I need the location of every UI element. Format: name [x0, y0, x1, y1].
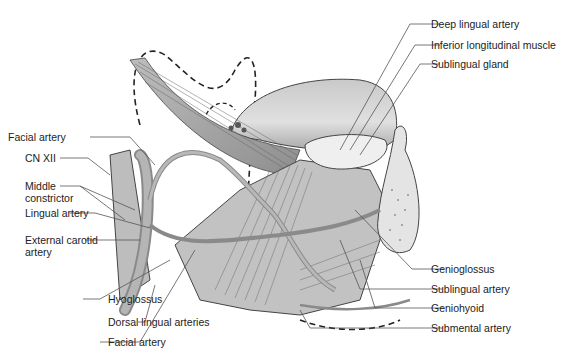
hyoglossus: [175, 160, 385, 315]
label-sublingual-gland: Sublingual gland: [431, 58, 509, 70]
label-sublingual-artery: Sublingual artery: [431, 283, 510, 295]
label-submental-artery: Submental artery: [431, 322, 511, 334]
label-hyoglossus: Hyoglossus: [108, 293, 162, 305]
label-geniohyoid: Geniohyoid: [431, 302, 484, 314]
label-external-carotid-artery: External carotid artery: [25, 234, 120, 258]
tongue-anatomy-illustration: [0, 0, 579, 353]
label-deep-lingual-artery: Deep lingual artery: [431, 18, 519, 30]
label-cn-xii: CN XII: [25, 152, 56, 164]
label-lingual-artery: Lingual artery: [25, 207, 89, 219]
label-facial-artery-lower: Facial artery: [108, 336, 166, 348]
label-dorsal-lingual-arteries: Dorsal lingual arteries: [108, 316, 210, 328]
label-inferior-longitudinal-muscle: Inferior longitudinal muscle: [431, 39, 556, 51]
label-genioglossus: Genioglossus: [431, 263, 495, 275]
label-facial-artery-upper: Facial artery: [8, 131, 66, 143]
label-middle-constrictor: Middle constrictor: [25, 180, 85, 204]
